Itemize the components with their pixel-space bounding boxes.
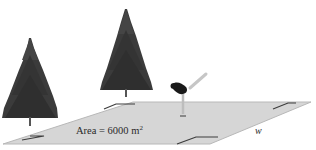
illustration: Area = 6000 m2 w [0,0,316,150]
width-label: w [255,125,262,136]
area-label: Area = 6000 m2 [76,124,143,136]
tree-middle [100,9,153,97]
tree-left [2,38,58,126]
